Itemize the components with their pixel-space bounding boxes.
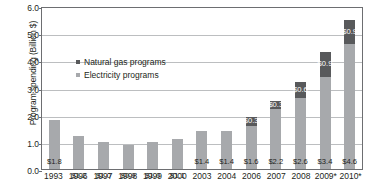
bar-segment-electricity[interactable]: $1.0 (98, 142, 109, 169)
chart-figure: Program spending (Billion $) 0.01.02.03.… (0, 0, 369, 193)
stacked-bar[interactable]: $0.3$2.2 (270, 101, 281, 169)
x-axis-tick-label: 2007 (264, 171, 289, 181)
stacked-bar[interactable]: $1.0 (98, 142, 109, 169)
bar-segment-natural-gas[interactable]: $0.9 (320, 52, 331, 76)
y-axis-tick-label: 5.0 (27, 30, 39, 40)
x-axis-tick-label: 1993 (41, 171, 66, 181)
bar-value-label-natural-gas: $0.3 (244, 118, 259, 126)
chart-legend: Natural gas programs Electricity program… (76, 57, 166, 83)
bar-slot: $0.6$2.6 (288, 8, 313, 169)
bar-slot: $1.4 (214, 8, 239, 169)
bar-slot: $1.1 (165, 8, 190, 169)
bar-segment-natural-gas[interactable]: $0.3 (246, 117, 257, 125)
bar-slot: $1.8 (42, 8, 67, 169)
stacked-bar[interactable]: $1.4 (196, 131, 207, 169)
x-axis-tick-label: 1997 (91, 171, 116, 181)
stacked-bar[interactable]: $1.2 (73, 136, 84, 169)
bar-value-label-electricity: $3.4 (318, 158, 333, 166)
legend-label-natural-gas: Natural gas programs (84, 57, 166, 67)
x-axis-tick-label: 2009* (313, 171, 338, 181)
bar-segment-electricity[interactable]: $0.9 (123, 145, 134, 169)
bar-segment-electricity[interactable]: $2.2 (270, 109, 281, 169)
bar-segment-natural-gas[interactable]: $0.6 (295, 82, 306, 98)
stacked-bar[interactable]: $1.8 (49, 120, 60, 169)
stacked-bar[interactable]: $0.6$2.6 (295, 82, 306, 169)
y-axis-tick-label: 3.0 (27, 85, 39, 95)
y-axis-tick-label: 6.0 (27, 3, 39, 13)
bar-slot: $1.0 (140, 8, 165, 169)
y-axis-tick-label: 0.0 (27, 166, 39, 176)
legend-swatch-icon-electricity (76, 73, 80, 77)
bar-segment-electricity[interactable]: $4.6 (344, 44, 355, 169)
bar-value-label-natural-gas: $0.6 (293, 86, 308, 94)
bar-segment-electricity[interactable]: $1.1 (172, 139, 183, 169)
bar-segment-electricity[interactable]: $3.4 (320, 77, 331, 169)
stacked-bar[interactable]: $0.9$4.6 (344, 20, 355, 169)
stacked-bar[interactable]: $0.9$3.4 (320, 52, 331, 169)
y-axis-tick-label: 1.0 (27, 139, 39, 149)
y-axis-title: Program spending (Billion $) (28, 0, 38, 153)
x-axis-tick-label: 1999 (140, 171, 165, 181)
stacked-bar[interactable]: $1.0 (147, 142, 158, 169)
bar-value-label-electricity: $2.2 (268, 158, 283, 166)
bar-segment-electricity[interactable]: $1.6 (246, 126, 257, 169)
legend-swatch-icon-natural-gas (76, 60, 80, 64)
bar-value-label-electricity: $1.8 (47, 158, 62, 166)
bar-value-label-natural-gas: $0.9 (342, 28, 357, 36)
bar-segment-electricity[interactable]: $2.6 (295, 98, 306, 169)
bar-slot: $0.9$4.6 (337, 8, 362, 169)
x-axis-tick-label: 2006 (239, 171, 264, 181)
bar-segment-natural-gas[interactable]: $0.3 (270, 101, 281, 109)
bar-segment-electricity[interactable]: $1.4 (196, 131, 207, 169)
bar-segment-electricity[interactable]: $1.4 (221, 131, 232, 169)
bar-slot: $0.3$1.6 (239, 8, 264, 169)
stacked-bar[interactable]: $1.4 (221, 131, 232, 169)
bar-value-label-natural-gas: $0.9 (318, 61, 333, 69)
x-axis-tick-label: 2004 (214, 171, 239, 181)
bar-value-label-electricity: $1.6 (244, 158, 259, 166)
y-axis-tick-label: 4.0 (27, 57, 39, 67)
legend-label-electricity: Electricity programs (84, 70, 159, 80)
plot-area: 0.01.02.03.04.05.06.0 $1.8$1.2$1.0$0.9$1… (41, 7, 363, 170)
bar-slot: $1.2 (67, 8, 92, 169)
legend-item-electricity: Electricity programs (76, 70, 166, 80)
bar-value-label-natural-gas: $0.3 (268, 101, 283, 109)
bar-value-label-electricity: $1.4 (219, 158, 234, 166)
stacked-bar[interactable]: $0.3$1.6 (246, 117, 257, 169)
x-axis-tick-label: 2008 (289, 171, 314, 181)
x-axis-tick-label: 2003 (190, 171, 215, 181)
stacked-bar[interactable]: $1.1 (172, 139, 183, 169)
bar-slot: $1.0 (91, 8, 116, 169)
legend-item-natural-gas: Natural gas programs (76, 57, 166, 67)
bar-segment-electricity[interactable]: $1.0 (147, 142, 158, 169)
y-axis-tick-label: 2.0 (27, 112, 39, 122)
bar-value-label-electricity: $2.6 (293, 158, 308, 166)
x-axis-tick-label: 2010* (338, 171, 363, 181)
bar-slot: $0.9 (116, 8, 141, 169)
bar-value-label-electricity: $4.6 (342, 158, 357, 166)
bar-segment-electricity[interactable]: $1.2 (73, 136, 84, 169)
bar-value-label-electricity: $1.4 (195, 158, 210, 166)
bar-slot: $0.3$2.2 (263, 8, 288, 169)
bar-segment-natural-gas[interactable]: $0.9 (344, 20, 355, 44)
x-axis-tick-label: 1996 (66, 171, 91, 181)
bar-slot: $1.4 (190, 8, 215, 169)
bar-segment-electricity[interactable]: $1.8 (49, 120, 60, 169)
x-axis-tick-label: 2000 (165, 171, 190, 181)
stacked-bar[interactable]: $0.9 (123, 145, 134, 169)
bar-series-group: $1.8$1.2$1.0$0.9$1.0$1.1$1.4$1.4$0.3$1.6… (42, 8, 362, 169)
x-axis-tick-label: 1998 (115, 171, 140, 181)
x-axis-tick-labels: 1993199619971998199920002003200420062007… (41, 171, 363, 181)
bar-slot: $0.9$3.4 (313, 8, 338, 169)
